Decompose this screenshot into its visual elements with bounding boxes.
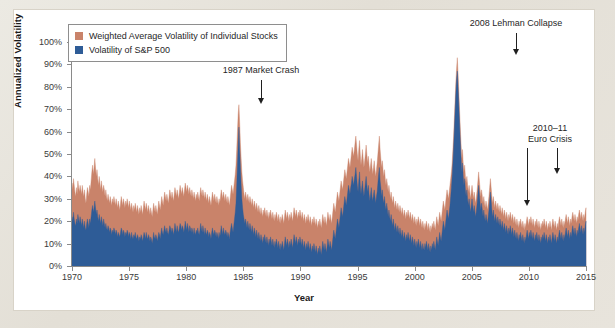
- legend-swatch-individual-stocks: [75, 32, 83, 40]
- x-axis-tick-label: 1980: [176, 272, 196, 282]
- legend-swatch-sp500: [75, 46, 83, 54]
- x-axis-tick-label: 1975: [119, 272, 139, 282]
- y-axis-tick-label: 60%: [22, 127, 62, 137]
- chart-card: Annualized Volatility Year 0%10%20%30%40…: [14, 10, 594, 310]
- chart-plot-area: Annualized Volatility Year 0%10%20%30%40…: [14, 10, 594, 310]
- annotation-2010-11-euro-crisis: 2010–11 Euro Crisis: [528, 123, 572, 145]
- y-axis-tick-label: 70%: [22, 104, 62, 114]
- y-axis-tick-label: 20%: [22, 216, 62, 226]
- x-axis-tick-label: 2015: [576, 272, 596, 282]
- x-axis-tick-label: 2005: [462, 272, 482, 282]
- y-axis-tick-label: 10%: [22, 239, 62, 249]
- legend-item: Volatility of S&P 500: [75, 43, 278, 57]
- y-axis-tick-label: 40%: [22, 171, 62, 181]
- y-axis-tick-label: 80%: [22, 82, 62, 92]
- y-axis-tick-label: 0%: [22, 261, 62, 271]
- x-axis-tick-label: 1970: [62, 272, 82, 282]
- legend-label-sp500: Volatility of S&P 500: [89, 45, 170, 55]
- y-axis-tick-label: 50%: [22, 149, 62, 159]
- x-axis-line: [71, 266, 586, 267]
- x-axis-tick-label: 2000: [405, 272, 425, 282]
- annotation-2008-lehman-collapse: 2008 Lehman Collapse: [470, 18, 563, 29]
- legend-label-individual-stocks: Weighted Average Volatility of Individua…: [89, 31, 278, 41]
- y-axis-tick-label: 30%: [22, 194, 62, 204]
- legend-item: Weighted Average Volatility of Individua…: [75, 29, 278, 43]
- x-axis-title: Year: [14, 292, 594, 303]
- x-axis-tick-mark: [586, 266, 587, 271]
- figure-background: Annualized Volatility Year 0%10%20%30%40…: [0, 0, 615, 328]
- y-axis-tick-labels: 0%10%20%30%40%50%60%70%80%90%100%: [18, 10, 62, 310]
- x-axis-tick-label: 1995: [348, 272, 368, 282]
- chart-legend: Weighted Average Volatility of Individua…: [68, 24, 287, 62]
- y-axis-tick-label: 90%: [22, 59, 62, 69]
- annotation-euro-line2: Euro Crisis: [528, 134, 572, 144]
- x-axis-tick-label: 2010: [519, 272, 539, 282]
- annotation-1987-market-crash: 1987 Market Crash: [223, 65, 300, 76]
- y-axis-line: [71, 42, 72, 267]
- x-axis-tick-label: 1990: [290, 272, 310, 282]
- y-axis-tick-label: 100%: [22, 37, 62, 47]
- x-axis-tick-label: 1985: [233, 272, 253, 282]
- annotation-euro-line1: 2010–11: [533, 123, 567, 133]
